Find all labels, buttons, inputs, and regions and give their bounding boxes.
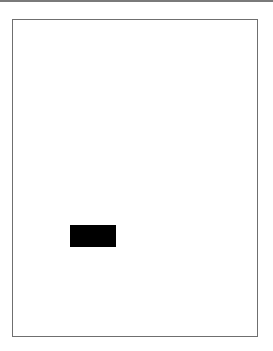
redaction-box — [70, 225, 116, 247]
top-divider — [0, 0, 273, 2]
document-page — [12, 19, 258, 337]
